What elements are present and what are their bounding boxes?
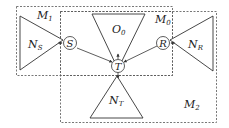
region-m1-label: M1 bbox=[36, 9, 53, 23]
edge-s-t bbox=[77, 48, 112, 62]
network-diagram: S R T NS NR NT O0 M1 M0 M2 bbox=[0, 0, 229, 128]
node-s-label: S bbox=[67, 38, 74, 49]
node-r-label: R bbox=[158, 38, 167, 49]
region-m2-label: M2 bbox=[183, 98, 200, 112]
edge-r-t bbox=[124, 46, 157, 62]
region-m0-label: M0 bbox=[154, 13, 171, 27]
triangle-ns bbox=[20, 16, 63, 70]
